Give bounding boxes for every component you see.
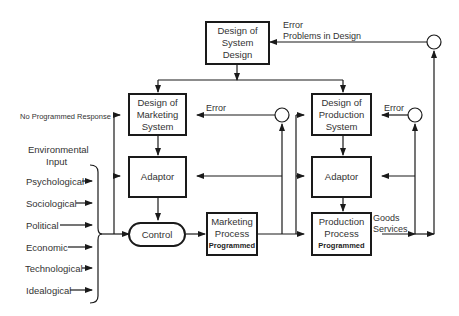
env-input-economic: Economic — [26, 242, 68, 253]
env-input-political: Political — [26, 220, 59, 231]
box-line: Marketing — [137, 109, 179, 121]
label-problems-in-design: Problems in Design — [283, 31, 361, 42]
label-input: Input — [46, 156, 67, 167]
box-label: Adaptor — [141, 171, 174, 183]
box-line: System — [222, 37, 254, 49]
box-control: Control — [128, 222, 186, 247]
box-adaptor-marketing: Adaptor — [128, 156, 187, 198]
box-line: System — [326, 121, 358, 133]
env-input-technological: Technological — [25, 263, 83, 274]
env-input-idealogical: Idealogical — [26, 285, 71, 296]
box-line: Programmed — [209, 240, 255, 252]
box-line: Design — [223, 49, 253, 61]
box-line: Design of — [321, 97, 361, 109]
label-goods: Goods — [373, 213, 400, 224]
comparator-circle-production — [408, 108, 422, 122]
label-no-programmed-response: No Programmed Response — [20, 111, 111, 122]
label-error-top: Error — [283, 20, 303, 31]
box-line: Process — [324, 228, 358, 240]
box-line: Production — [319, 109, 364, 121]
box-line: System — [142, 121, 174, 133]
box-line: Process — [215, 228, 249, 240]
label-error-production: Error — [384, 103, 404, 114]
box-line: Design of — [217, 25, 257, 37]
comparator-circle-marketing — [275, 108, 289, 122]
box-design-of-production-system: Design of Production System — [311, 93, 372, 136]
box-line: Design of — [137, 97, 177, 109]
box-label: Control — [142, 229, 173, 241]
env-input-sociological: Sociological — [26, 198, 77, 209]
box-design-of-marketing-system: Design of Marketing System — [128, 93, 187, 136]
box-line: Marketing — [211, 216, 253, 228]
box-adaptor-production: Adaptor — [311, 156, 372, 198]
box-line: Programmed — [318, 240, 364, 252]
label-error-marketing: Error — [206, 103, 226, 114]
box-marketing-process: Marketing Process Programmed — [206, 212, 258, 256]
box-label: Adaptor — [325, 171, 358, 183]
label-services: Services — [373, 224, 408, 235]
box-line: Production — [319, 216, 364, 228]
box-production-process: Production Process Programmed — [311, 212, 372, 256]
comparator-circle-top — [427, 35, 441, 49]
box-design-of-system-design: Design of System Design — [205, 21, 270, 65]
label-environmental: Environmental — [28, 144, 89, 155]
env-input-psychological: Psychological — [26, 176, 84, 187]
